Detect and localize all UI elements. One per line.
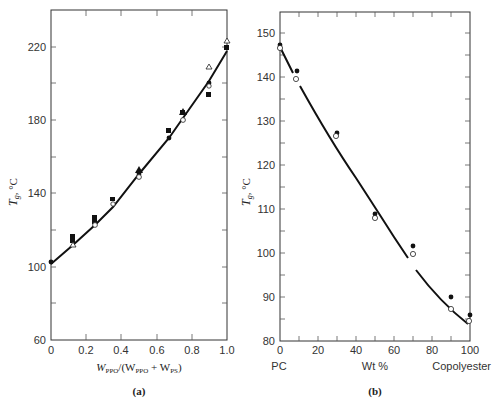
x-tick-label: 0.6: [149, 344, 164, 356]
x-tick-label: 20: [312, 344, 324, 356]
x-tick-label: 40: [350, 344, 362, 356]
panel-b: 150 140 130 120 110 100 90 80 0 20 40 60…: [239, 12, 491, 398]
y-tick-label: 180: [28, 114, 46, 126]
y-ticks-b: [280, 33, 470, 319]
y-axis-title-b: Tg, °C: [239, 178, 254, 206]
y-tick-label: 110: [257, 203, 275, 215]
fit-curve-b: [281, 49, 468, 324]
panel-label-b: (b): [368, 385, 382, 398]
series-open-circle-a: [93, 84, 212, 228]
fit-curve-a: [51, 51, 227, 264]
series-filled-triangle-a: [135, 108, 187, 173]
y-tick-label: 100: [257, 247, 275, 259]
panel-a: 220 180 140 100 60 0 0.2 0.4 0.6 0.8 1.0…: [6, 10, 235, 398]
figure: 220 180 140 100 60 0 0.2 0.4 0.6 0.8 1.0…: [0, 0, 498, 404]
y-tick-label: 140: [257, 71, 275, 83]
series-filled-square-a: [70, 45, 229, 243]
x-axis-title-a: WPPO/(WPPO + WPS): [96, 361, 182, 375]
x-end-label-copolyester: Copolyester: [432, 360, 491, 372]
y-tick-label: 120: [257, 159, 275, 171]
x-tick-label: 100: [461, 344, 479, 356]
y-tick-label: 150: [257, 27, 275, 39]
x-tick-label: 1.0: [219, 344, 234, 356]
y-tick-label: 80: [263, 335, 275, 347]
x-tick-label: 0.2: [78, 344, 93, 356]
x-end-label-pc: PC: [271, 360, 286, 372]
x-tick-label: 60: [388, 344, 400, 356]
y-axis-title-a: Tg, °C: [6, 178, 21, 206]
panel-label-a: (a): [133, 385, 146, 398]
y-tick-label: 100: [28, 261, 46, 273]
x-tick-label: 0: [48, 344, 54, 356]
y-tick-label: 140: [28, 187, 46, 199]
y-tick-label: 60: [34, 334, 46, 346]
x-axis-title-b: Wt %: [362, 360, 388, 372]
y-tick-label: 130: [257, 115, 275, 127]
y-tick-label: 90: [263, 291, 275, 303]
x-tick-label: 0: [277, 344, 283, 356]
y-tick-label: 220: [28, 41, 46, 53]
x-tick-label: 80: [426, 344, 438, 356]
x-tick-label: 0.4: [113, 344, 128, 356]
x-tick-label: 0.8: [184, 344, 199, 356]
x-ticks-b: [299, 12, 451, 341]
series-filled-circle-b: [278, 43, 473, 318]
plot-frame-b: [280, 12, 470, 341]
series-open-circle-b: [277, 45, 471, 323]
